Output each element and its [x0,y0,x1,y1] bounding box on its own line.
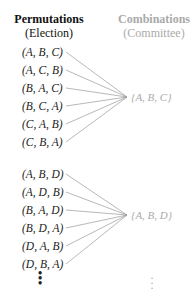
right-continuation-dots: ··· [150,276,154,291]
permutation-item: (B, A, D) [22,203,63,217]
permutation-item: (B, A, C) [22,81,63,95]
permutation-item: (A, D, B) [22,185,64,199]
left-continuation-dots: ••• [38,271,42,286]
permutation-item: (B, C, A) [22,99,63,113]
permutation-item: (B, D, A) [22,221,63,235]
permutation-item: (A, B, D) [22,167,64,181]
combination-item: {A, B, C} [131,90,172,104]
permutation-item: (A, C, B) [22,63,63,77]
permutation-item: (D, B, A) [22,257,63,271]
permutation-item: (C, A, B) [22,117,63,131]
permutation-item: (A, B, C) [22,45,63,59]
combination-item: {A, B, D} [131,208,172,222]
permutation-item: (D, A, B) [22,239,63,253]
permutation-item: (C, B, A) [22,135,63,149]
